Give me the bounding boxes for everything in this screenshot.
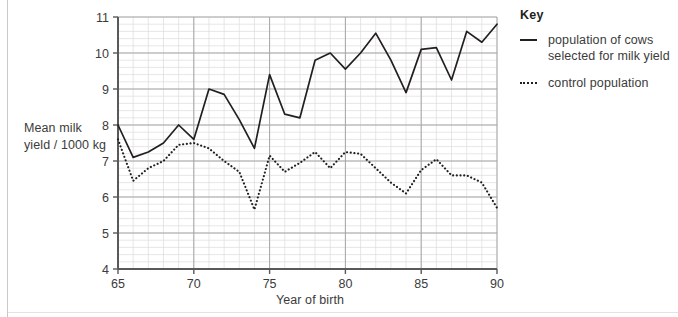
- y-tick-label-7: 7: [102, 155, 109, 169]
- key-label-line2: selected for milk yield: [548, 49, 670, 63]
- line-chart: 4567891011 657075808590 Mean milk yield …: [0, 0, 520, 317]
- page-canvas: 4567891011 657075808590 Mean milk yield …: [0, 0, 678, 317]
- series-line-control: [118, 139, 497, 209]
- series-line-selected: [118, 24, 497, 157]
- y-axis-title-line2: yield / 1000 kg: [24, 137, 116, 154]
- x-tick-label-65: 65: [111, 277, 125, 291]
- y-tick-label-10: 10: [95, 47, 109, 61]
- key-item-selected-population-label: population of cows selected for milk yie…: [548, 32, 670, 64]
- key-title: Key: [520, 8, 678, 22]
- key-label-line1: population of cows: [548, 33, 653, 47]
- key-item-selected-population: population of cows selected for milk yie…: [520, 32, 678, 64]
- series-control-population: [118, 139, 497, 209]
- key-item-control-population: control population: [520, 75, 678, 91]
- y-tick-label-6: 6: [102, 191, 109, 205]
- x-tick-label-70: 70: [187, 277, 201, 291]
- y-tick-label-11: 11: [96, 11, 109, 25]
- x-tick-label-85: 85: [414, 277, 428, 291]
- x-tick-label-75: 75: [263, 277, 277, 291]
- y-tick-label-4: 4: [102, 263, 109, 277]
- chart-plot-svg: 4567891011 657075808590: [0, 0, 520, 317]
- y-axis-title: Mean milk yield / 1000 kg: [24, 120, 116, 154]
- y-tick-label-5: 5: [102, 227, 109, 241]
- key-item-control-population-label: control population: [548, 75, 648, 91]
- y-axis-title-line1: Mean milk: [24, 120, 116, 137]
- y-tick-label-9: 9: [102, 83, 109, 97]
- x-tick-labels: 657075808590: [111, 277, 504, 291]
- x-tick-label-90: 90: [490, 277, 504, 291]
- series-selected-population: [118, 24, 497, 157]
- x-axis-title: Year of birth: [180, 292, 440, 309]
- dotted-line-swatch-icon: [520, 75, 542, 90]
- x-tick-label-80: 80: [338, 277, 352, 291]
- chart-key: Key population of cows selected for milk…: [520, 8, 678, 102]
- solid-line-swatch-icon: [520, 32, 542, 47]
